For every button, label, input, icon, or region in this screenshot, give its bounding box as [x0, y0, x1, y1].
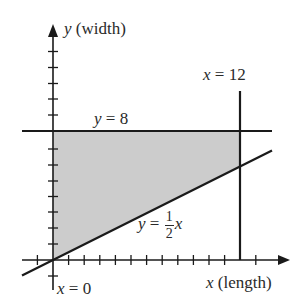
x-axis-label-var: x	[206, 273, 214, 292]
y-axis-label: y (width)	[64, 20, 126, 37]
label-y-equals-half-x-eq: =	[146, 214, 164, 233]
label-y-equals-8-var: y	[94, 109, 102, 128]
fraction-denominator: 2	[165, 226, 174, 241]
fraction-numerator: 1	[165, 210, 174, 226]
y-axis-label-var: y	[64, 19, 72, 38]
label-x-equals-12-var: x	[203, 65, 211, 84]
y-axis-arrow-icon	[48, 24, 58, 37]
label-y-equals-8-eq: = 8	[102, 109, 129, 128]
label-y-equals-half-x-var: y	[138, 214, 146, 233]
x-axis-label: x (length)	[206, 274, 272, 291]
label-x-equals-0: x = 0	[57, 280, 91, 297]
label-x-equals-12: x = 12	[203, 66, 246, 83]
fraction-one-half: 12	[165, 210, 174, 241]
label-x-equals-0-eq: = 0	[65, 279, 92, 298]
label-x-equals-12-eq: = 12	[211, 65, 246, 84]
y-axis-label-text: (width)	[72, 19, 126, 38]
label-y-equals-half-x-tail: x	[175, 214, 183, 233]
feasible-region-diagram	[0, 0, 300, 306]
x-axis-arrow-icon	[278, 255, 290, 265]
x-axis-label-text: (length)	[214, 273, 272, 292]
label-y-equals-half-x: y = 12x	[138, 210, 182, 241]
label-x-equals-0-var: x	[57, 279, 65, 298]
label-y-equals-8: y = 8	[94, 110, 128, 127]
